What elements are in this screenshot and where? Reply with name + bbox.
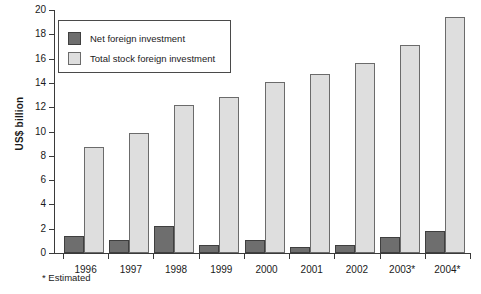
y-tick-label: 0: [40, 248, 46, 258]
y-tick-label: 12: [35, 102, 46, 112]
y-tick-label: 20: [35, 5, 46, 15]
x-tick-label: 2003*: [389, 264, 415, 276]
x-tick-mark: [108, 253, 109, 259]
x-tick-mark: [289, 253, 290, 259]
x-tick-mark: [380, 253, 381, 259]
x-axis-line: [54, 253, 470, 254]
y-tick-mark: [49, 83, 55, 84]
x-tick-mark: [244, 253, 245, 259]
legend-swatch-net-icon: [68, 32, 81, 45]
y-tick-mark: [49, 107, 55, 108]
bar-total: [445, 17, 465, 253]
bar-net: [245, 240, 265, 253]
y-axis-label: US$ billion: [14, 79, 25, 169]
bar-total: [355, 63, 375, 253]
bar-net: [335, 245, 355, 254]
y-tick-label: 14: [35, 78, 46, 88]
y-tick-mark: [49, 180, 55, 181]
y-tick-label: 10: [35, 127, 46, 137]
y-tick-mark: [49, 34, 55, 35]
y-tick-label: 4: [40, 199, 46, 209]
x-tick-mark: [199, 253, 200, 259]
bar-net: [199, 245, 219, 254]
legend-item: Net foreign investment: [68, 28, 230, 48]
x-tick-mark: [63, 253, 64, 259]
bar-total: [174, 105, 194, 253]
y-tick-mark: [49, 156, 55, 157]
x-tick-label: 1997: [120, 264, 142, 276]
x-tick-label: 1998: [165, 264, 187, 276]
bar-chart: US$ billion 02468101214161820 1996199719…: [0, 0, 481, 294]
y-tick-mark: [49, 253, 55, 254]
x-tick-label: 2004*: [434, 264, 460, 276]
footnote: * Estimated: [42, 272, 91, 283]
bar-total: [129, 133, 149, 253]
x-tick-label: 2000: [255, 264, 277, 276]
legend-swatch-total-icon: [68, 52, 81, 65]
x-tick-mark: [425, 253, 426, 259]
y-tick-mark: [49, 229, 55, 230]
x-tick-mark: [153, 253, 154, 259]
bar-total: [219, 97, 239, 253]
y-tick-mark: [49, 204, 55, 205]
x-tick-label: 2002: [346, 264, 368, 276]
y-tick-label: 18: [35, 29, 46, 39]
y-tick-label: 8: [40, 151, 46, 161]
y-tick-label: 2: [40, 224, 46, 234]
bar-net: [380, 237, 400, 253]
x-tick-mark: [470, 253, 471, 259]
bar-total: [265, 82, 285, 253]
y-tick-mark: [49, 10, 55, 11]
bar-total: [84, 147, 104, 253]
x-tick-mark: [334, 253, 335, 259]
y-tick-label: 6: [40, 175, 46, 185]
bar-net: [64, 236, 84, 253]
bar-net: [290, 247, 310, 253]
bar-net: [154, 226, 174, 253]
x-tick-label: 2001: [301, 264, 323, 276]
legend-label: Total stock foreign investment: [90, 53, 215, 64]
legend-label: Net foreign investment: [90, 33, 185, 44]
y-tick-mark: [49, 132, 55, 133]
bar-net: [425, 231, 445, 253]
legend-item: Total stock foreign investment: [68, 48, 230, 68]
bar-total: [310, 74, 330, 253]
legend: Net foreign investment Total stock forei…: [58, 20, 231, 73]
x-tick-label: 1999: [210, 264, 232, 276]
y-tick-mark: [49, 59, 55, 60]
bar-total: [400, 45, 420, 253]
bar-net: [109, 240, 129, 253]
y-tick-label: 16: [35, 54, 46, 64]
